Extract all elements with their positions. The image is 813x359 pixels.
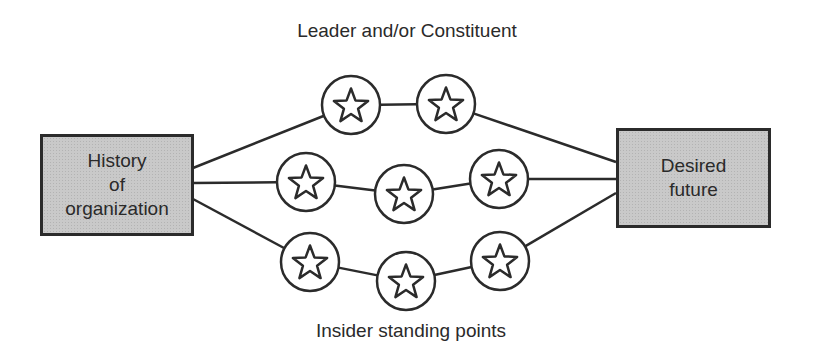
middle-path-link xyxy=(433,184,471,190)
history-of-organization-box: History of organization xyxy=(40,134,194,236)
node-group xyxy=(277,75,529,310)
standing-point-node xyxy=(322,76,380,134)
node-circle xyxy=(470,150,528,208)
standing-point-node xyxy=(417,75,475,133)
bottom-path-link xyxy=(434,267,471,275)
standing-point-node xyxy=(277,153,335,211)
middle-path-link xyxy=(335,186,375,191)
standing-point-node xyxy=(375,165,433,223)
bottom-path-link xyxy=(338,268,377,276)
standing-point-node xyxy=(471,232,529,290)
left-box-line-3: organization xyxy=(65,197,169,221)
right-box-line-2: future xyxy=(661,178,726,202)
node-circle xyxy=(375,165,433,223)
bottom-label: Insider standing points xyxy=(276,320,546,342)
standing-point-node xyxy=(470,150,528,208)
middle-path-start-connector xyxy=(193,182,277,183)
bottom-path-start-connector xyxy=(193,199,284,248)
desired-future-box: Desired future xyxy=(616,128,771,228)
node-circle xyxy=(417,75,475,133)
node-circle xyxy=(377,252,435,310)
node-circle xyxy=(281,233,339,291)
top-label: Leader and/or Constituent xyxy=(272,20,542,42)
standing-point-node xyxy=(281,233,339,291)
left-box-line-1: History xyxy=(65,149,169,173)
left-box-line-2: of xyxy=(65,173,169,197)
right-box-line-1: Desired xyxy=(661,154,726,178)
standing-point-node xyxy=(377,252,435,310)
node-circle xyxy=(471,232,529,290)
bottom-path-end-connector xyxy=(525,193,616,246)
node-circle xyxy=(322,76,380,134)
node-circle xyxy=(277,153,335,211)
